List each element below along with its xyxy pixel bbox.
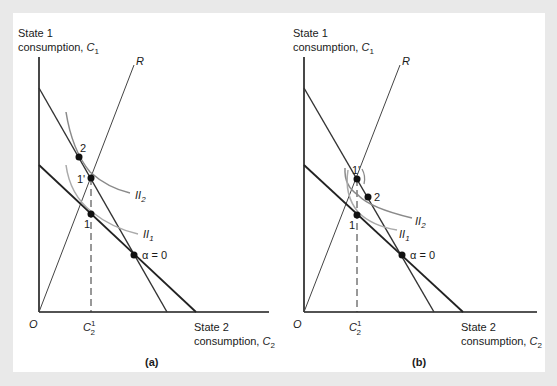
ray-label: R xyxy=(402,55,410,67)
y-axis-label-line2: consumption, C1 xyxy=(18,41,99,56)
origin-label: O xyxy=(293,318,302,330)
point-1-label: 1 xyxy=(84,218,90,230)
point-1 xyxy=(88,211,95,218)
tick-label-c2-1: C12 xyxy=(83,319,96,337)
ii2-label: II2 xyxy=(415,215,426,230)
origin-label: O xyxy=(29,318,38,330)
point-1prime xyxy=(354,176,361,183)
indifference-curve-ii2-tail xyxy=(362,169,365,184)
ii1-label: II1 xyxy=(399,228,410,243)
ii1-label: II1 xyxy=(143,228,154,243)
panel-caption: (a) xyxy=(145,356,159,368)
panel-caption: (b) xyxy=(412,356,426,368)
figure-svg: State 1 consumption, C1 R 2 1' 1 α = 0 I… xyxy=(0,0,557,386)
point-1prime-label: 1' xyxy=(352,164,360,176)
point-2-label: 2 xyxy=(374,191,380,203)
x-axis-label-line2: consumption, C2 xyxy=(461,335,542,350)
point-2 xyxy=(76,154,83,161)
point-alpha0 xyxy=(399,252,406,259)
x-axis-label-line1: State 2 xyxy=(194,321,229,333)
point-1prime-label: 1' xyxy=(77,173,85,185)
y-axis-label-line1: State 1 xyxy=(293,27,328,39)
point-1 xyxy=(354,212,361,219)
flat-budget-line xyxy=(39,165,196,312)
point-2-label: 2 xyxy=(80,142,86,154)
steep-budget-line xyxy=(39,88,167,312)
ray-r xyxy=(304,65,400,312)
ii2-label: II2 xyxy=(135,189,146,204)
x-axis-label-line2: consumption, C2 xyxy=(194,335,275,350)
ray-r xyxy=(39,65,134,312)
point-1-label: 1 xyxy=(349,219,355,231)
y-axis-label-line2: consumption, C1 xyxy=(293,41,374,56)
y-axis-label-line1: State 1 xyxy=(18,27,53,39)
panel-b: State 1 consumption, C1 R 1' 2 1 α = 0 I… xyxy=(293,27,542,368)
point-alpha0 xyxy=(131,252,138,259)
x-axis-label-line1: State 2 xyxy=(461,321,496,333)
tick-label-c2-1: C12 xyxy=(349,319,362,337)
point-2 xyxy=(365,194,372,201)
flat-budget-line xyxy=(304,165,463,312)
point-1prime xyxy=(88,175,95,182)
point-alpha0-label: α = 0 xyxy=(142,249,167,261)
point-alpha0-label: α = 0 xyxy=(410,249,435,261)
panel-a: State 1 consumption, C1 R 2 1' 1 α = 0 I… xyxy=(18,27,275,368)
ray-label: R xyxy=(136,55,144,67)
